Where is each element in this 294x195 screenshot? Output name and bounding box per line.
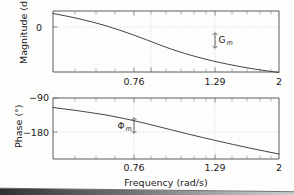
frequency-axis-title: Frequency (rad/s) bbox=[124, 177, 207, 188]
phase-margin-subscript: m bbox=[126, 125, 132, 133]
magnitude-xtick-129: 1.29 bbox=[204, 76, 225, 87]
phase-xtick-2: 2 bbox=[276, 162, 282, 173]
magnitude-curve bbox=[53, 14, 279, 73]
magnitude-axis-title: Magnitude (dB) bbox=[18, 0, 29, 64]
gain-margin-label: G bbox=[219, 35, 226, 45]
phase-bottom-ticks bbox=[75, 155, 271, 160]
phase-ytick-minus180: −180 bbox=[23, 127, 49, 138]
magnitude-bottom-ticks bbox=[75, 68, 271, 73]
bode-plot-figure: G m 0 Magnitude (dB) 0.76 1.29 2 bbox=[0, 0, 294, 195]
phase-axis-title: Phase (°) bbox=[13, 104, 24, 148]
phase-xtick-076: 0.76 bbox=[123, 162, 144, 173]
magnitude-xtick-2: 2 bbox=[276, 76, 282, 87]
scan-edge-artifact bbox=[0, 188, 294, 195]
phase-y-ticks bbox=[53, 98, 58, 132]
gain-margin-subscript: m bbox=[227, 39, 233, 47]
gain-margin-annotation bbox=[213, 33, 218, 49]
phase-margin-label: Φ bbox=[118, 121, 125, 131]
phase-curve bbox=[53, 108, 279, 155]
magnitude-ytick-0: 0 bbox=[36, 22, 42, 33]
magnitude-subplot: G m 0 Magnitude (dB) 0.76 1.29 2 bbox=[18, 0, 282, 87]
phase-top-ticks bbox=[75, 98, 271, 103]
phase-subplot: Φ m −90 −180 Phase (°) 0.76 1.29 2 Frequ… bbox=[13, 92, 282, 188]
magnitude-top-ticks bbox=[75, 11, 271, 16]
phase-xtick-129: 1.29 bbox=[204, 162, 225, 173]
bode-plot-canvas: G m 0 Magnitude (dB) 0.76 1.29 2 bbox=[0, 0, 294, 195]
magnitude-xtick-076: 0.76 bbox=[123, 76, 144, 87]
phase-ytick-minus90: −90 bbox=[29, 92, 49, 103]
